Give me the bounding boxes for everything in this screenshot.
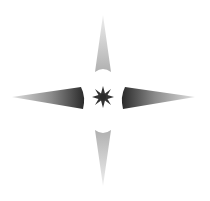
compass-star-graphic	[0, 0, 210, 201]
left-arm	[12, 87, 84, 109]
compass-star-icon	[0, 0, 210, 201]
top-arm	[95, 15, 111, 72]
right-arm	[122, 87, 195, 109]
center-dot	[100, 94, 106, 100]
bottom-arm	[95, 130, 111, 186]
